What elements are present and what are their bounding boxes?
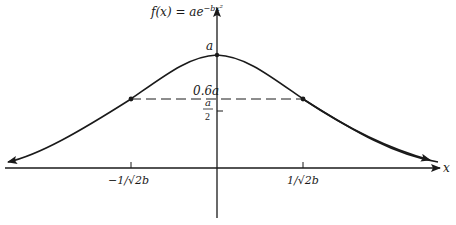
x-axis-label: x: [443, 161, 450, 175]
inflection-point-right: [301, 97, 306, 102]
half-label-denominator: 2: [205, 111, 210, 122]
gaussian-curve: [8, 55, 438, 162]
x-tick-label-left: −1/√2b: [108, 174, 149, 187]
sixty-percent-label: 0.6a: [193, 84, 219, 98]
peak-label: a: [206, 39, 213, 53]
inflection-point-left: [129, 97, 134, 102]
x-tick-label-right: 1/√2b: [287, 174, 319, 187]
function-label: f(x) = ae−bx²: [150, 4, 223, 19]
gaussian-diagram: x f(x) = ae−bx² a 0.6a a 2 −1/√2b 1/√2b: [0, 0, 456, 225]
peak-point: [215, 53, 219, 57]
half-label-numerator: a: [205, 97, 211, 108]
